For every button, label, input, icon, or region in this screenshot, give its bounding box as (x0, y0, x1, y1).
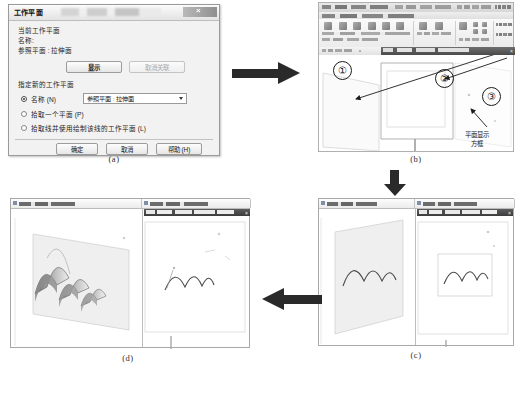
sketch-view-c[interactable] (416, 208, 514, 347)
arrow-a-to-b (232, 62, 304, 84)
search-box-redacted[interactable] (395, 5, 451, 9)
panel-c-sketch-arcs: × (c) (318, 198, 514, 398)
window-controls[interactable]: × (183, 7, 217, 17)
document-icon (13, 201, 17, 205)
name-label: 名称: (18, 38, 34, 45)
radio-pick-plane[interactable] (21, 111, 27, 117)
caption-c: (c) (386, 350, 446, 360)
radio-pick-line-label[interactable]: 拾取线并使用绘制该线的工作平面 (L) (31, 126, 146, 133)
view-tab-3d-d[interactable] (11, 199, 142, 208)
set-workplane-button-label[interactable] (496, 33, 512, 36)
panel-b-app-window: × ① ② ③ (318, 2, 514, 170)
radio-name[interactable] (21, 96, 27, 102)
current-plane-value: 参照平面 : 拉伸面 (18, 48, 73, 55)
qat-icons-redacted[interactable] (457, 5, 491, 9)
sketch-editor-close-icon-c[interactable]: × (508, 210, 511, 216)
view-tab-plan-label-c (423, 202, 477, 206)
plane-box-annotation-line1: 平面显示 (465, 131, 489, 140)
ribbon-panel[interactable] (319, 19, 513, 48)
figure-container: 工作平面 × 当前工作平面 名称: 参照平面 : 拉伸面 显示 取消关联 指定新… (0, 0, 520, 403)
view-tab-plan-c[interactable] (415, 199, 515, 208)
view-tab-plan-label-d (150, 202, 208, 206)
plane-name-combobox[interactable]: 参照平面 : 拉伸面 (83, 93, 187, 104)
3d-view-c[interactable] (319, 208, 415, 347)
workplane-button-label[interactable] (496, 23, 512, 26)
dialog-body: 当前工作平面 名称: 参照平面 : 拉伸面 显示 取消关联 指定新的工作平面 名… (9, 21, 219, 157)
view-tab-3d-c[interactable] (319, 199, 415, 208)
close-icon[interactable]: × (196, 6, 201, 15)
dialog-title-redacted-text (61, 8, 161, 16)
current-workplane-group-label: 当前工作平面 (18, 28, 60, 35)
show-button[interactable]: 显示 (66, 61, 122, 73)
drawing-canvas[interactable]: ① ② ③ 平面显示 方框 (319, 55, 513, 151)
workplane-dialog: 工作平面 × 当前工作平面 名称: 参照平面 : 拉伸面 显示 取消关联 指定新… (8, 4, 220, 156)
plane-box-annotation-line2: 方框 (465, 140, 489, 149)
sketch-editor-title-d (146, 210, 234, 214)
caption-b: (b) (386, 154, 446, 164)
sketch-view-d[interactable] (143, 208, 251, 349)
app-title-redacted (322, 5, 388, 9)
caption-d: (d) (98, 353, 158, 363)
divider (15, 139, 213, 140)
radio-pick-line[interactable] (21, 125, 27, 131)
sketch-editor-title-c (419, 210, 497, 214)
plane-box-annotation: 平面显示 方框 (465, 131, 489, 148)
cad-window-c: × (318, 198, 514, 346)
document-icon (417, 201, 421, 205)
view-tab-3d-redacted[interactable] (322, 49, 352, 52)
3d-view-d[interactable] (11, 208, 142, 349)
new-workplane-group-label: 指定新的工作平面 (18, 82, 74, 89)
caption-a: (a) (84, 154, 144, 164)
ribbon-tabs-redacted[interactable] (322, 14, 414, 18)
radio-pick-plane-label[interactable]: 拾取一个平面 (P) (31, 112, 84, 119)
document-icon (144, 201, 148, 205)
plane-name-combobox-value: 参照平面 : 拉伸面 (87, 94, 134, 103)
sketch-editor-title-bar-d: × (144, 209, 250, 216)
arrow-b-to-c (384, 170, 406, 196)
cad-window-d: × (10, 198, 250, 348)
dialog-title: 工作平面 (14, 7, 43, 17)
document-icon (321, 201, 325, 205)
sketch-editor-title-bar: × (381, 47, 515, 55)
cad-application-window: × ① ② ③ (318, 2, 514, 152)
sketch-editor-title-bar-c: × (417, 209, 513, 216)
view-tab-3d-label-c (327, 202, 377, 206)
radio-name-label[interactable]: 名称 (N) (31, 97, 56, 104)
dissociate-button[interactable]: 取消关联 (129, 61, 185, 73)
help-button[interactable]: 帮助 (H) (156, 143, 202, 155)
window-controls-redacted[interactable] (495, 5, 511, 9)
panel-d-extruded-surface: × (d) (10, 198, 250, 398)
panel-a-workplane-dialog: 工作平面 × 当前工作平面 名称: 参照平面 : 拉伸面 显示 取消关联 指定新… (8, 4, 220, 164)
sketch-editor-title-redacted (383, 48, 469, 52)
chevron-down-icon[interactable] (179, 97, 183, 100)
arrow-c-to-d (262, 288, 322, 310)
sketch-editor-close-icon-d[interactable]: × (245, 210, 248, 216)
dialog-title-bar: 工作平面 × (9, 5, 219, 21)
view-tab-3d-label-d (19, 202, 75, 206)
sketch-editor-close-icon[interactable]: × (510, 48, 513, 54)
view-tab-plan-d[interactable] (142, 199, 251, 208)
